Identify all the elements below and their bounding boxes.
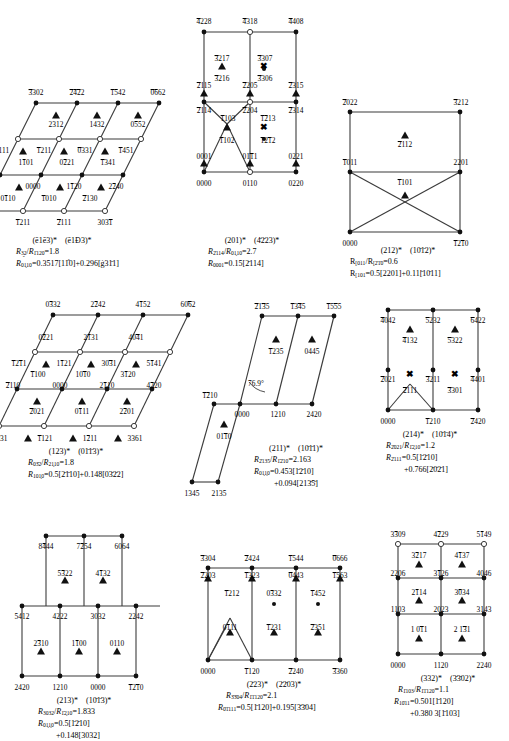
spot-label: 2112 xyxy=(398,141,413,148)
spot-label: 3216 xyxy=(215,75,230,82)
zone-axis-primary: (212)* xyxy=(381,246,402,255)
spot-label: 3031 xyxy=(98,219,113,226)
ratio-sub-b: 01̖10 xyxy=(231,250,242,256)
spot-label: 1103 xyxy=(221,115,236,122)
spot-label: 2420 xyxy=(307,411,322,418)
spot-label: 2240 xyxy=(109,183,124,190)
spot-label: 2240 xyxy=(289,668,304,675)
spot-label: 5322 xyxy=(58,570,73,577)
ratio-value: 2.163 xyxy=(293,455,311,464)
spot-label: 2203 xyxy=(201,572,216,579)
spot-label: 2242 xyxy=(129,613,144,620)
ratio-value: 0.6 xyxy=(388,257,398,266)
relation-line: R2̄111=0.5[1̄2̄10] xyxy=(386,453,438,464)
ratio-value: 1.833 xyxy=(77,707,95,716)
ratio-sub-b: 1̄2̖10 xyxy=(61,710,72,716)
spot-label: 1100 xyxy=(31,371,46,378)
spot-label: 6422 xyxy=(471,317,486,324)
spot-label: 0000 xyxy=(26,183,41,190)
spot-label: 2315 xyxy=(289,82,304,89)
spot-label: 1 011 xyxy=(411,626,428,633)
spot-label: 4220 xyxy=(147,382,162,389)
spot-label: 5141 xyxy=(147,360,162,367)
spot-label: 4041 xyxy=(129,334,144,341)
spot-label: 1210 xyxy=(454,240,469,247)
spot-label: 3212 xyxy=(454,99,469,106)
spot-label: 4137 xyxy=(455,552,470,559)
spot-label: 4228 xyxy=(197,18,212,25)
triangle-spot-marker xyxy=(272,336,280,343)
spot-label: 1211 xyxy=(37,147,52,154)
spot-label: 1235 xyxy=(269,348,284,355)
zone-axis-secondary: (01̄1̄3)* xyxy=(78,447,103,456)
spot-label: 4318 xyxy=(243,18,258,25)
spot-label: 1213 xyxy=(261,115,276,122)
ratio-line: R[011/R[2̄1̄0=0.6 xyxy=(350,257,398,268)
spot-label: 8444 xyxy=(39,543,54,550)
forbidden-spot-marker: ✖ xyxy=(260,123,268,132)
triangle-spot-marker xyxy=(93,112,101,119)
spot-label: 1323 xyxy=(245,572,260,579)
spot-label: 1210 xyxy=(129,684,144,691)
spot-label: 0110 xyxy=(1,195,16,202)
ratio-sub-b: 1̄120 xyxy=(34,250,45,256)
relation-line-2: +0.766[2̄0̄2̄1] xyxy=(404,465,448,475)
ratio-sub-b: 1̄1̄120 xyxy=(249,694,263,700)
panel-caption: (214)* (10̄1̄4)* xyxy=(403,430,458,440)
spot-label: 2022 xyxy=(343,99,358,106)
triangle-spot-marker xyxy=(19,148,27,155)
triangle-spot-marker xyxy=(56,184,64,191)
spot-label: 4222 xyxy=(53,613,68,620)
spot-label: 2351 xyxy=(311,624,326,631)
zone-axis-secondary: (10̄1̄3)* xyxy=(86,696,111,705)
panel-caption: (123)* (01̄1̄3)* xyxy=(49,447,103,457)
triangle-spot-marker xyxy=(223,124,231,131)
spot-label: 3034 xyxy=(455,589,470,596)
ratio-sub-b: 1̄2̖10 xyxy=(409,444,420,450)
triangle-spot-marker xyxy=(220,421,228,428)
spot-label: 0221 xyxy=(289,153,304,160)
spot-label: 0443 xyxy=(289,572,304,579)
ratio-value: 1.2 xyxy=(425,441,435,450)
triangle-spot-marker xyxy=(246,90,254,97)
panel-214: ✖ ✖ 4042 5232 6422 4132 5322 2021 3211 4… xyxy=(358,288,508,488)
relation-line: R[101=0.5[2201]+0.11[̄10̄11] xyxy=(350,269,441,280)
spot-label: 1345 xyxy=(291,303,306,310)
spot-label: 4132 xyxy=(96,570,111,577)
spot-label: 0000 xyxy=(53,382,68,389)
spot-label: 2111 xyxy=(403,387,417,394)
relation-line-2: +0.094[213̄5̄] xyxy=(274,479,318,489)
spot-label: 1211 xyxy=(12,360,27,367)
spot-label: 2111 xyxy=(0,147,9,154)
ratio-value: 2.7 xyxy=(247,247,257,256)
spot-label: 1231 xyxy=(267,624,282,631)
spot-label: 3143 xyxy=(477,606,492,613)
spot-label: 2201 xyxy=(120,408,135,415)
spot-label: 4229 xyxy=(434,531,449,538)
spot-label: 0001 xyxy=(197,153,212,160)
spot-label: 1120 xyxy=(434,662,449,669)
triangle-spot-marker xyxy=(415,561,423,568)
spot-label: 1010 xyxy=(42,195,57,202)
spot-label: 1101 xyxy=(398,179,413,186)
triangle-spot-marker xyxy=(123,398,131,405)
relation-text: =0.453[1̄2̄10] xyxy=(270,467,314,476)
spot-label: 2205 xyxy=(243,82,258,89)
spot-label: 1210 xyxy=(271,411,286,418)
forbidden-spot-marker: ✖ xyxy=(406,370,414,379)
spot-label: 4408 xyxy=(289,18,304,25)
spot-label: 2206 xyxy=(391,570,406,577)
ratio-line: R3̄3̄04/R1̄1̄120=2.1 xyxy=(226,691,277,702)
spot-label: 3361 xyxy=(128,435,143,442)
spot-label: 2204 xyxy=(243,107,258,114)
relation-text: =0.5[2̄1̄10]+0.148[03̄2̄2] xyxy=(44,470,123,479)
spot-label: 2131 xyxy=(84,334,99,341)
ratio-sub-a: 3̄3̄04 xyxy=(231,694,242,700)
spot-label: 0220 xyxy=(289,180,304,187)
spot-label: 3309 xyxy=(391,531,406,538)
spot-label: 1100 xyxy=(72,640,87,647)
relation-line: R01̖1̖0=0.453[1̄2̄10] xyxy=(254,467,314,478)
spot-label: 0000 xyxy=(391,662,406,669)
spot-label: 1102 xyxy=(220,137,235,144)
spot-label: 3304 xyxy=(201,555,216,562)
